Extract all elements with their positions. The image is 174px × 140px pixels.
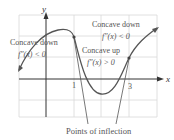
tick-label-3: 3 [128,82,132,91]
concavity-diagram: y x 1 3 Concave down f″(x) < 0 Concave d… [0,0,174,140]
x-axis-arrow-icon [157,77,164,82]
curve-right-arrow-icon [152,27,159,33]
tick-label-1: 1 [72,81,76,90]
pointer-line-3 [116,59,129,124]
left-region-title: Concave down [10,38,58,47]
right-region-condition: f″(x) < 0 [102,32,130,41]
x-axis-label: x [165,74,170,84]
right-region-title: Concave down [92,20,140,29]
middle-region-title: Concave up [82,46,120,55]
y-axis-label: y [41,4,46,14]
middle-region-condition: f″(x) > 0 [87,58,115,67]
left-region-condition: f″(x) < 0 [18,50,46,59]
caption-points-of-inflection: Points of inflection [66,126,132,136]
